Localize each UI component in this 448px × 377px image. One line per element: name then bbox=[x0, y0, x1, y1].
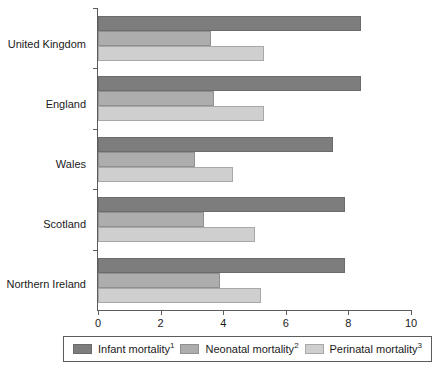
x-axis-tick-label: 2 bbox=[146, 317, 176, 330]
category-label-wales: Wales bbox=[56, 158, 86, 170]
bar-chart: United Kingdom England Wales Scotland No… bbox=[0, 0, 448, 377]
y-axis-tick bbox=[93, 129, 98, 130]
medium-gray-swatch-icon bbox=[180, 344, 199, 354]
y-axis-tick bbox=[93, 8, 98, 9]
x-axis-tick-label: 4 bbox=[208, 317, 238, 330]
legend-item-infant-mortality[interactable]: Infant mortality1 bbox=[73, 343, 175, 356]
bar-scotland-infant-mortality bbox=[98, 197, 345, 212]
x-axis-tick bbox=[223, 310, 224, 315]
bar-wales-perinatal-mortality bbox=[98, 167, 233, 182]
bar-northern-ireland-infant-mortality bbox=[98, 258, 345, 273]
legend-item-perinatal-mortality[interactable]: Perinatal mortality3 bbox=[305, 343, 423, 356]
chart-legend: Infant mortality1 Neonatal mortality2 Pe… bbox=[63, 336, 432, 362]
bar-england-perinatal-mortality bbox=[98, 106, 264, 121]
x-axis-tick-label: 0 bbox=[83, 317, 113, 330]
dark-gray-swatch-icon bbox=[73, 344, 92, 354]
bar-scotland-perinatal-mortality bbox=[98, 227, 255, 242]
x-axis-tick bbox=[348, 310, 349, 315]
x-axis-tick bbox=[286, 310, 287, 315]
legend-label-perinatal-mortality: Perinatal mortality3 bbox=[330, 343, 423, 356]
bar-united-kingdom-infant-mortality bbox=[98, 16, 361, 31]
x-axis-line bbox=[97, 310, 411, 311]
plot-area: 0246810 bbox=[98, 8, 411, 310]
bar-scotland-neonatal-mortality bbox=[98, 212, 204, 227]
x-axis-tick-label: 10 bbox=[396, 317, 426, 330]
light-gray-swatch-icon bbox=[305, 344, 324, 354]
x-axis-tick-label: 6 bbox=[271, 317, 301, 330]
category-label-united-kingdom: United Kingdom bbox=[8, 38, 86, 50]
bar-northern-ireland-neonatal-mortality bbox=[98, 273, 220, 288]
bar-wales-infant-mortality bbox=[98, 137, 333, 152]
category-label-northern-ireland: Northern Ireland bbox=[7, 278, 87, 290]
bar-united-kingdom-perinatal-mortality bbox=[98, 46, 264, 61]
x-axis-tick bbox=[161, 310, 162, 315]
legend-label-infant-mortality: Infant mortality1 bbox=[98, 343, 175, 356]
x-axis-tick-label: 8 bbox=[333, 317, 363, 330]
bar-wales-neonatal-mortality bbox=[98, 152, 195, 167]
category-label-scotland: Scotland bbox=[43, 218, 86, 230]
category-label-england: England bbox=[46, 98, 86, 110]
bar-northern-ireland-perinatal-mortality bbox=[98, 288, 261, 303]
y-axis-tick bbox=[93, 68, 98, 69]
legend-item-neonatal-mortality[interactable]: Neonatal mortality2 bbox=[180, 343, 298, 356]
x-axis-tick bbox=[411, 310, 412, 315]
bar-england-infant-mortality bbox=[98, 76, 361, 91]
bar-england-neonatal-mortality bbox=[98, 91, 214, 106]
y-axis-tick bbox=[93, 250, 98, 251]
y-axis-tick bbox=[93, 189, 98, 190]
x-axis-tick bbox=[98, 310, 99, 315]
category-axis-labels: United Kingdom England Wales Scotland No… bbox=[0, 8, 92, 310]
bar-united-kingdom-neonatal-mortality bbox=[98, 31, 211, 46]
legend-label-neonatal-mortality: Neonatal mortality2 bbox=[205, 343, 298, 356]
